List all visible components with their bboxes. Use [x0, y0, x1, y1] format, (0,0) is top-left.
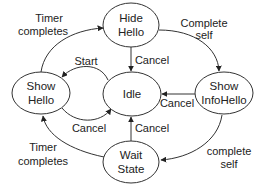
label-showinfo-to-idle: Cancel — [160, 97, 194, 109]
node-show-infohello: Show InfoHello — [195, 72, 253, 114]
node-hide-hello-line1: Hide — [119, 12, 143, 24]
node-show-infohello-line2: InfoHello — [201, 94, 246, 106]
label-idle-to-showhello: Start — [74, 55, 97, 67]
state-diagram: Hide Hello Idle Wait State Show InfoHell… — [0, 0, 262, 188]
node-show-hello-line2: Hello — [28, 94, 54, 106]
node-show-hello-line1: Show — [27, 80, 56, 92]
node-wait-state: Wait State — [103, 141, 159, 183]
node-show-infohello-line1: Show — [210, 80, 239, 92]
node-show-hello: Show Hello — [12, 72, 70, 114]
label-showhello-to-hide-line2: completes — [18, 25, 69, 37]
node-wait-state-line1: Wait — [120, 149, 143, 161]
label-showhello-to-hide-line1: Timer — [35, 12, 63, 24]
label-hide-to-idle: Cancel — [135, 54, 169, 66]
node-idle: Idle — [103, 72, 161, 116]
label-wait-to-showhello-line1: Timer — [29, 141, 57, 153]
label-wait-to-idle: Cancel — [135, 122, 169, 134]
edge-idle-to-showhello — [62, 66, 108, 80]
node-hide-hello-line2: Hello — [118, 26, 144, 38]
label-showhello-to-idle: Cancel — [72, 122, 106, 134]
label-wait-to-showhello-line2: completes — [18, 155, 69, 167]
edge-showhello-to-idle — [62, 108, 111, 120]
label-showinfo-to-wait-line1: complete — [207, 145, 252, 157]
node-hide-hello: Hide Hello — [103, 3, 159, 47]
label-hide-to-showinfo-line1: Complete — [180, 17, 227, 29]
node-wait-state-line2: State — [118, 163, 145, 175]
node-idle-label: Idle — [123, 88, 142, 100]
label-showinfo-to-wait-line2: self — [220, 158, 238, 170]
label-hide-to-showinfo-line2: self — [195, 29, 213, 41]
